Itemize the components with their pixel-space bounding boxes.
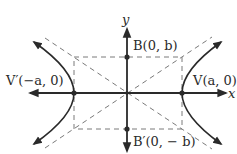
label-b: B(0, b) <box>133 38 178 53</box>
covertex-b-prime-point <box>124 126 129 131</box>
covertex-b-point <box>124 54 129 59</box>
vertex-v-prime-point <box>71 90 76 95</box>
label-b-prime: B′(0, − b) <box>133 134 196 149</box>
origin-point <box>125 91 129 95</box>
label-v-prime: V′(−a, 0) <box>5 73 64 88</box>
y-axis-label: y <box>121 12 130 27</box>
x-axis-label: x <box>228 86 236 101</box>
label-v: V(a, 0) <box>192 73 237 88</box>
hyperbola-diagram: y x B(0, b) B′(0, − b) V(a, 0) V′(−a, 0) <box>0 0 237 154</box>
vertex-v-point <box>179 90 184 95</box>
